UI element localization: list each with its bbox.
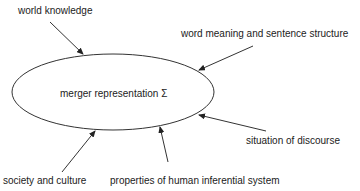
label-society: society and culture: [3, 175, 86, 187]
arrow-world-knowledge: [50, 22, 83, 54]
label-inferential: properties of human inferential system: [110, 175, 280, 187]
label-word-meaning: word meaning and sentence structure: [181, 28, 348, 40]
arrow-inferential: [160, 127, 168, 162]
arrow-situation: [199, 115, 266, 131]
label-world-knowledge: world knowledge: [18, 5, 93, 17]
center-label: merger representation Σ: [60, 88, 167, 100]
arrow-society: [62, 131, 95, 172]
arrow-word-meaning: [199, 46, 253, 70]
diagram-canvas: merger representation Σ world knowledge …: [0, 0, 360, 191]
label-situation: situation of discourse: [246, 135, 340, 147]
